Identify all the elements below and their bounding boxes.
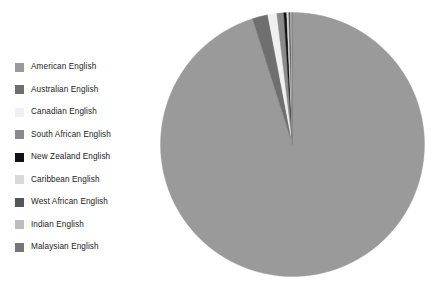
legend-item[interactable]: Canadian English — [15, 101, 155, 124]
legend-item-label: Canadian English — [31, 107, 97, 117]
pie-slice-group — [161, 13, 425, 277]
pie-chart-area — [159, 11, 426, 278]
legend-color-swatch — [15, 198, 24, 207]
legend-color-swatch — [15, 153, 24, 162]
legend-item[interactable]: South African English — [15, 124, 155, 147]
legend-color-swatch — [15, 220, 24, 229]
legend-item[interactable]: Australian English — [15, 79, 155, 102]
legend-item[interactable]: American English — [15, 56, 155, 79]
legend-color-swatch — [15, 243, 24, 252]
legend-item-label: West African English — [31, 197, 108, 207]
legend-item[interactable]: Malaysian English — [15, 236, 155, 259]
pie-chart-figure: American EnglishAustralian EnglishCanadi… — [0, 0, 443, 295]
legend-color-swatch — [15, 175, 24, 184]
legend-item[interactable]: West African English — [15, 191, 155, 214]
legend-item[interactable]: Caribbean English — [15, 169, 155, 192]
pie-svg — [159, 11, 426, 278]
legend-item[interactable]: New Zealand English — [15, 146, 155, 169]
legend-color-swatch — [15, 130, 24, 139]
legend-item-label: American English — [31, 62, 96, 72]
legend-item-label: Indian English — [31, 220, 84, 230]
legend-color-swatch — [15, 63, 24, 72]
legend-item-label: Australian English — [31, 85, 98, 95]
legend-color-swatch — [15, 108, 24, 117]
legend-color-swatch — [15, 85, 24, 94]
legend-item-label: South African English — [31, 130, 111, 140]
legend-item-label: New Zealand English — [31, 152, 110, 162]
legend-item[interactable]: Indian English — [15, 214, 155, 237]
chart-legend: American EnglishAustralian EnglishCanadi… — [15, 56, 155, 259]
legend-item-label: Malaysian English — [31, 242, 99, 252]
legend-item-label: Caribbean English — [31, 175, 100, 185]
